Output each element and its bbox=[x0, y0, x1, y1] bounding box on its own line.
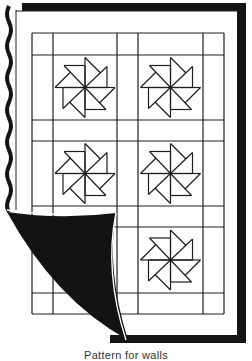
pinwheel-edge bbox=[171, 230, 187, 246]
pinwheel-edge bbox=[141, 245, 157, 261]
pinwheel-edge bbox=[100, 174, 116, 190]
pinwheel-edge bbox=[85, 144, 101, 160]
frame-top bbox=[22, 3, 246, 11]
pinwheel-edge bbox=[70, 188, 86, 204]
pinwheel-edge bbox=[100, 88, 116, 104]
pinwheel-edge bbox=[85, 58, 101, 74]
frame-right bbox=[237, 3, 246, 343]
pinwheel-edge bbox=[155, 102, 171, 118]
pinwheel-edge bbox=[141, 72, 157, 88]
pinwheel-edge bbox=[64, 152, 85, 174]
pinwheel-edge bbox=[171, 260, 192, 282]
page-curl-shadow bbox=[7, 212, 128, 340]
pinwheel-block bbox=[141, 230, 201, 290]
pinwheel-center bbox=[169, 259, 172, 262]
pinwheel-edge bbox=[85, 67, 107, 88]
page-curl-edge-top bbox=[7, 210, 116, 214]
pinwheel-edge bbox=[55, 158, 71, 174]
pinwheel-edge bbox=[150, 152, 171, 174]
pinwheel-edge bbox=[150, 238, 171, 260]
pinwheel-block bbox=[141, 58, 201, 118]
pinwheel-edge bbox=[85, 88, 106, 110]
pinwheel-edge bbox=[149, 174, 171, 195]
pinwheel-center bbox=[169, 172, 172, 175]
pinwheel-edge bbox=[64, 66, 85, 88]
pinwheel-edge bbox=[171, 153, 193, 174]
pinwheel-edge bbox=[171, 174, 192, 196]
pinwheel-center bbox=[84, 172, 87, 175]
pinwheel-edge bbox=[149, 260, 171, 281]
pinwheel-edge bbox=[185, 260, 201, 276]
pinwheel-edge bbox=[155, 275, 171, 291]
pinwheel-edge bbox=[171, 239, 193, 260]
pinwheel-edge bbox=[185, 174, 201, 190]
pinwheel-block bbox=[141, 144, 201, 204]
pinwheel-center bbox=[84, 86, 87, 89]
pinwheel-block bbox=[55, 58, 115, 118]
pinwheel-edge bbox=[171, 144, 187, 160]
pinwheel-edge bbox=[150, 66, 171, 88]
pinwheel-edge bbox=[171, 58, 187, 74]
pinwheel-edge bbox=[85, 153, 107, 174]
pinwheel-edge bbox=[55, 72, 71, 88]
pinwheel-edge bbox=[155, 188, 171, 204]
pinwheel-edge bbox=[63, 174, 85, 195]
pinwheel-block bbox=[55, 144, 115, 204]
pinwheel-center bbox=[169, 86, 172, 89]
frame-bottom bbox=[110, 335, 246, 343]
wavy-left-edge bbox=[7, 6, 11, 212]
pinwheel-edge bbox=[141, 158, 157, 174]
pinwheel-edge bbox=[185, 88, 201, 104]
page-cutaway bbox=[0, 335, 110, 345]
pinwheel-edge bbox=[171, 67, 193, 88]
pinwheel-edge bbox=[85, 174, 106, 196]
figure-caption: Pattern for walls bbox=[0, 349, 252, 361]
pinwheel-edge bbox=[171, 88, 192, 110]
pinwheel-edge bbox=[63, 88, 85, 109]
pinwheel-edge bbox=[70, 102, 86, 118]
pinwheel-edge bbox=[149, 88, 171, 109]
